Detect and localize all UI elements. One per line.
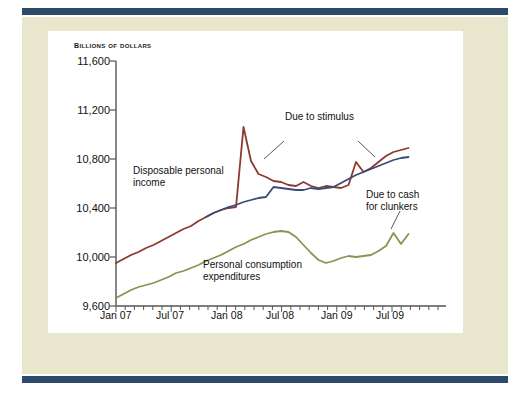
x-tick-label-jul07: Jul 07: [156, 309, 184, 321]
chart-panel: Billions of dollars 11,600 11,200 10,800…: [48, 31, 463, 333]
callout-leader-lines: [264, 141, 400, 229]
chart-svg: [48, 31, 463, 333]
x-tick-label-jan08: Jan 08: [211, 309, 243, 321]
x-tick-label-jul08: Jul 08: [266, 309, 294, 321]
annotation-personal-consumption-expenditures: Personal consumption expenditures: [203, 259, 302, 283]
top-rule: [22, 8, 508, 15]
x-tick-label-jan07: Jan 07: [100, 309, 132, 321]
annotation-due-to-cash-for-clunkers: Due to cash for clunkers: [366, 189, 419, 213]
annotation-disposable-personal-income: Disposable personal income: [133, 165, 224, 189]
figure-page: Billions of dollars 11,600 11,200 10,800…: [0, 0, 526, 401]
annotation-due-to-stimulus: Due to stimulus: [285, 111, 354, 123]
bottom-rule: [22, 376, 508, 383]
x-tick-label-jan09: Jan 09: [321, 309, 353, 321]
x-tick-label-jul09: Jul 09: [376, 309, 404, 321]
